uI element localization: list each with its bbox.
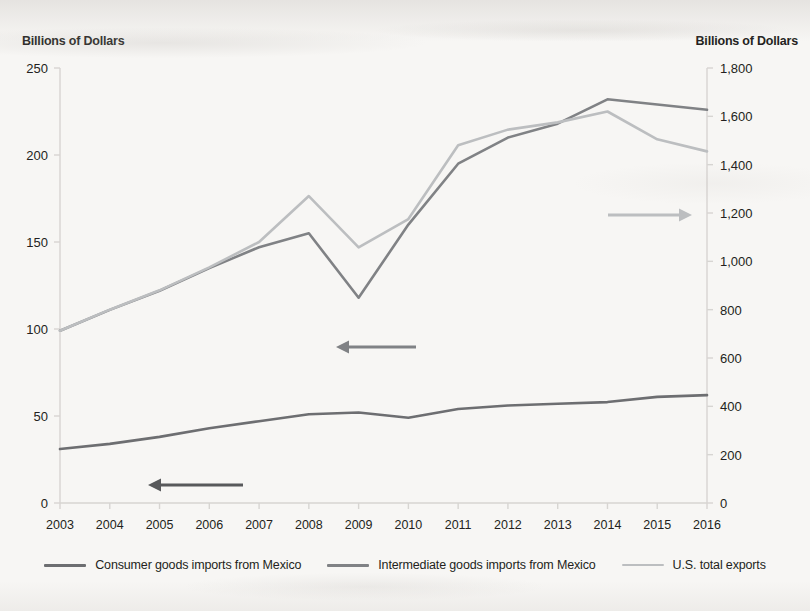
series-lines bbox=[60, 99, 707, 449]
series-line bbox=[60, 395, 707, 449]
chart-legend: Consumer goods imports from MexicoInterm… bbox=[0, 558, 810, 572]
exports-axis-arrow bbox=[608, 209, 692, 222]
axis-lines bbox=[54, 68, 713, 509]
legend-swatch bbox=[327, 564, 369, 567]
axis-arrows bbox=[148, 209, 692, 492]
consumer-axis-arrow bbox=[148, 479, 243, 492]
legend-label: Consumer goods imports from Mexico bbox=[95, 558, 301, 572]
chart-container: Billions of Dollars Billions of Dollars … bbox=[0, 0, 810, 611]
legend-swatch bbox=[622, 564, 664, 566]
legend-item[interactable]: Consumer goods imports from Mexico bbox=[44, 558, 301, 572]
plot-area bbox=[0, 0, 810, 611]
intermediate-axis-arrow bbox=[336, 341, 416, 354]
series-line bbox=[60, 112, 707, 331]
legend-swatch bbox=[44, 564, 86, 567]
legend-label: U.S. total exports bbox=[673, 558, 766, 572]
legend-item[interactable]: U.S. total exports bbox=[622, 558, 766, 572]
legend-item[interactable]: Intermediate goods imports from Mexico bbox=[327, 558, 595, 572]
legend-label: Intermediate goods imports from Mexico bbox=[378, 558, 595, 572]
